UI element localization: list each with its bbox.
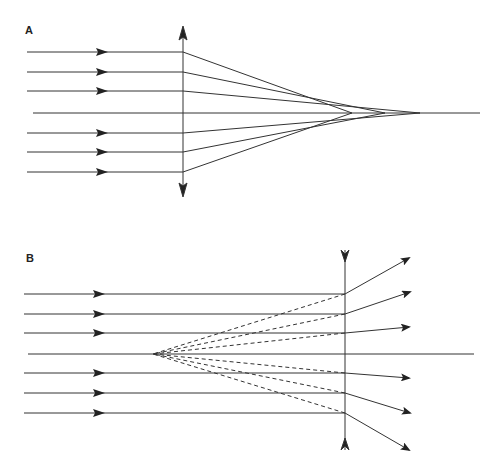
ray-arrows-a bbox=[96, 48, 108, 176]
refracted-rays-a bbox=[183, 52, 420, 172]
panel-a-diagram bbox=[27, 26, 480, 197]
optics-diagram bbox=[0, 0, 497, 470]
incoming-rays-a bbox=[27, 52, 183, 172]
panel-b-diagram bbox=[24, 250, 474, 450]
